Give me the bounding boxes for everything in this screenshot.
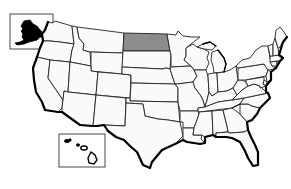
- hawaii-island-maui[interactable]: [81, 146, 87, 150]
- state-colorado[interactable]: [96, 72, 131, 98]
- state-wyoming[interactable]: [91, 52, 123, 74]
- us-map: United States: [0, 0, 291, 189]
- hawaii-inset: [59, 134, 105, 167]
- state-montana[interactable]: [77, 27, 124, 53]
- state-kansas[interactable]: [130, 83, 178, 102]
- state-new-mexico[interactable]: [93, 95, 126, 126]
- hawaii-island-niihau[interactable]: [69, 139, 71, 141]
- state-arizona[interactable]: [62, 91, 96, 126]
- state-south-dakota[interactable]: [122, 51, 171, 69]
- state-florida[interactable]: [216, 130, 258, 166]
- state-north-dakota[interactable]: [123, 33, 170, 51]
- state-michigan[interactable]: [211, 50, 226, 73]
- hawaii-inset-frame: [59, 134, 105, 167]
- hawaii-island-oahu[interactable]: [76, 144, 79, 147]
